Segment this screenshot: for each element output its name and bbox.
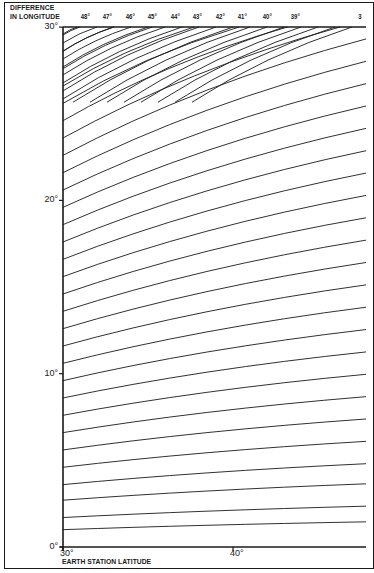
elevation-curve xyxy=(63,27,199,91)
elevation-curve xyxy=(63,522,366,530)
elevation-curve xyxy=(63,441,366,467)
elevation-curve xyxy=(63,330,366,381)
elevation-curve xyxy=(63,27,80,35)
elevation-curve xyxy=(63,27,131,59)
elevation-curve xyxy=(90,27,250,102)
x-tick-label: 40° xyxy=(230,548,244,558)
elevation-curve xyxy=(63,151,366,242)
elevation-curve xyxy=(175,27,335,102)
curve-label: 43° xyxy=(193,13,202,20)
y-tick-label: 0° xyxy=(49,541,58,551)
curve-label: 48° xyxy=(81,13,90,20)
elevation-curve xyxy=(63,397,366,433)
elevation-curve xyxy=(63,484,366,500)
elevation-curve xyxy=(63,39,366,155)
x-axis-title: EARTH STATION LATITUDE xyxy=(62,557,151,566)
elevation-curve xyxy=(107,27,267,102)
y-tick-label: 30° xyxy=(44,21,58,31)
elevation-curve xyxy=(63,419,366,450)
y-tick-label: 20° xyxy=(44,194,58,204)
elevation-curve xyxy=(63,374,366,415)
elevation-curve xyxy=(63,27,287,121)
elevation-curve xyxy=(63,27,182,83)
elevation-curve xyxy=(63,106,366,207)
curve-label: 39° xyxy=(291,13,300,20)
y-tick-label: 10° xyxy=(44,368,58,378)
elevation-curve xyxy=(63,464,366,485)
curve-label: 40° xyxy=(263,13,272,20)
curve-label: 42° xyxy=(216,13,225,20)
elevation-curve xyxy=(63,506,366,517)
elevation-curve xyxy=(63,27,152,69)
elevation-curve xyxy=(158,27,318,102)
elevation-curve xyxy=(192,27,352,102)
elevation-curve xyxy=(63,27,77,34)
curve-label: 45° xyxy=(148,13,157,20)
curve-label: 44° xyxy=(171,13,180,20)
elevation-curve xyxy=(73,27,233,102)
elevation-curve xyxy=(141,27,301,102)
elevation-curve xyxy=(63,173,366,259)
elevation-curve xyxy=(63,84,366,190)
curve-label: 46° xyxy=(126,13,135,20)
elevation-curve xyxy=(63,195,366,276)
curve-label: 47° xyxy=(103,13,112,20)
elevation-curve xyxy=(63,240,366,311)
elevation-curve xyxy=(63,263,366,329)
elevation-curve xyxy=(63,128,366,224)
curve-label: 3 xyxy=(358,13,361,20)
curve-label: 41° xyxy=(238,13,247,20)
